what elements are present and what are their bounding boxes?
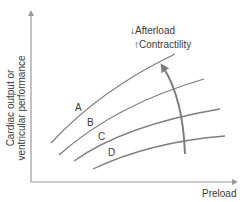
x-axis-label: Preload	[202, 188, 236, 199]
y-axis-label-line2: ventricular performance	[16, 55, 27, 160]
contractility-label: Contractility	[139, 39, 191, 50]
curve-label-b: B	[87, 117, 94, 128]
curve-label-a: A	[75, 102, 82, 113]
curve-label-d: D	[108, 147, 115, 158]
annotation-contractility: ↑Contractility	[134, 39, 191, 50]
frank-starling-figure: A B C D ↓Afterload ↑Contractility Preloa…	[0, 0, 245, 202]
curve-c	[74, 109, 220, 161]
curve-label-c: C	[98, 131, 105, 142]
y-axis-label-line1: Cardiac output or	[5, 69, 16, 146]
afterload-label: Afterload	[135, 25, 175, 36]
curve-a	[51, 54, 175, 143]
annotation-afterload: ↓Afterload	[130, 25, 175, 36]
